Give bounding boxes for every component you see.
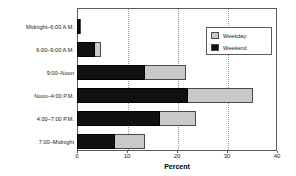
bar-segment-weekend[interactable] bbox=[77, 88, 188, 103]
category-label: 9:00–Noon bbox=[2, 70, 74, 77]
category-axis-labels: Midnight–6:00 A.M. 6:00–9:00 A.M. 9:00–N… bbox=[0, 8, 74, 151]
tick-label: 30 bbox=[224, 153, 231, 159]
bar-segment-weekend[interactable] bbox=[77, 111, 160, 126]
legend-swatch-weekend bbox=[211, 44, 219, 51]
bar-segment-weekend[interactable] bbox=[77, 42, 95, 57]
x-axis: 0 10 20 30 40 bbox=[77, 151, 277, 163]
bar-segment-weekday[interactable] bbox=[80, 19, 81, 34]
category-label: Midnight–6:00 A.M. bbox=[2, 24, 74, 31]
tick-label: 40 bbox=[274, 153, 281, 159]
bar-segment-weekend[interactable] bbox=[77, 134, 115, 149]
x-axis-title: Percent bbox=[77, 163, 277, 170]
tick-label: 0 bbox=[75, 153, 78, 159]
bar-segment-weekday[interactable] bbox=[95, 42, 101, 57]
bar-segment-weekday[interactable] bbox=[188, 88, 253, 103]
bar-segment-weekday[interactable] bbox=[160, 111, 196, 126]
table-row[interactable] bbox=[77, 88, 253, 103]
table-row[interactable] bbox=[77, 134, 145, 149]
table-row[interactable] bbox=[77, 19, 81, 34]
category-label: 7:00–Midnight bbox=[2, 139, 74, 146]
table-row[interactable] bbox=[77, 111, 196, 126]
bar-segment-weekday[interactable] bbox=[115, 134, 145, 149]
legend-label: Weekday bbox=[223, 33, 246, 39]
legend: Weekday Weekend bbox=[206, 27, 272, 55]
tick-label: 10 bbox=[124, 153, 131, 159]
tick-label: 20 bbox=[174, 153, 181, 159]
legend-swatch-weekday bbox=[211, 32, 219, 39]
bar-segment-weekday[interactable] bbox=[145, 65, 186, 80]
legend-label: Weekend bbox=[223, 45, 247, 51]
table-row[interactable] bbox=[77, 42, 101, 57]
bar-segment-weekend[interactable] bbox=[77, 65, 145, 80]
category-label: Noon–4:00 P.M. bbox=[2, 93, 74, 100]
chart-screenshot: Midnight–6:00 A.M. 6:00–9:00 A.M. 9:00–N… bbox=[0, 0, 296, 176]
category-label: 6:00–9:00 A.M. bbox=[2, 47, 74, 54]
table-row[interactable] bbox=[77, 65, 186, 80]
legend-item-weekday[interactable]: Weekday bbox=[211, 32, 246, 39]
category-label: 4:00–7:00 P.M. bbox=[2, 116, 74, 123]
legend-item-weekend[interactable]: Weekend bbox=[211, 44, 247, 51]
